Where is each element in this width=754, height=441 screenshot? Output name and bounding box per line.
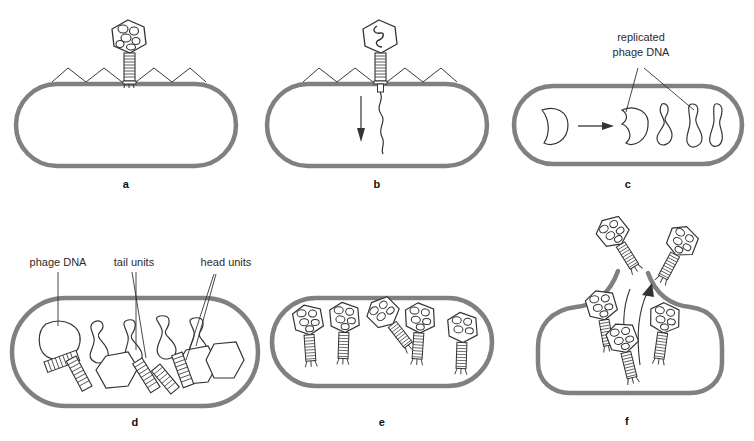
bacterium-cell-a [16,84,236,166]
released-phage-f5 [643,301,681,367]
released-phage-f4 [604,320,648,387]
phage-head-a [112,20,146,53]
panel-letter-f: f [500,415,754,427]
released-phage-f2 [647,221,703,290]
panel-letter-c: c [502,178,754,190]
label-head-units-d: head units [201,256,252,268]
panel-c: replicated phage DNA c [502,0,754,200]
label-replicated-phage-dna-line2: phage DNA [613,46,671,58]
panel-letter-b: b [251,178,503,190]
bacterium-cell-b [267,84,487,166]
released-phage-f1 [592,215,650,280]
panel-a: a [0,0,252,200]
panel-b: b [251,0,503,200]
panel-letter-e: e [256,416,508,428]
phage-lytic-cycle-figure: a [0,0,754,441]
phage-tail-a [124,53,135,81]
cell-wall-a [16,84,236,166]
label-phage-dna-d: phage DNA [30,256,88,268]
panel-letter-a: a [0,178,252,190]
label-replicated-phage-dna-line1: replicated [617,31,665,43]
panel-f: f [500,215,754,441]
cell-wall-b [267,84,487,166]
phage-tail-b [375,53,386,81]
panel-d: phage DNA tail units head units d [0,240,286,441]
phage-b [363,20,397,92]
panel-letter-d: d [0,416,270,428]
phage-head-b [363,20,397,53]
panel-e: e [256,280,508,441]
label-tail-units-d: tail units [114,256,155,268]
